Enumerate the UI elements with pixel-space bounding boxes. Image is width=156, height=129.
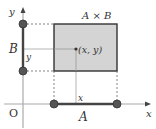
y-axis-arrow-icon [21, 7, 26, 13]
a-left-dot [50, 100, 58, 108]
a-right-dot [113, 100, 121, 108]
y-coord-label: y [25, 52, 32, 62]
set-a-label: A [78, 110, 88, 124]
x-axis-label: x [146, 108, 152, 119]
x-coord-label: x [78, 93, 83, 103]
b-bottom-dot [19, 67, 27, 75]
cartesian-product-diagram: y x O B A y x (x, y) A × B [0, 0, 156, 129]
product-label: A × B [81, 10, 111, 21]
y-axis-label: y [8, 6, 15, 17]
b-top-dot [19, 20, 27, 28]
set-b-label: B [8, 42, 18, 56]
origin-label: O [9, 107, 18, 120]
point-xy-label: (x, y) [78, 44, 102, 55]
x-axis-arrow-icon [145, 102, 151, 107]
